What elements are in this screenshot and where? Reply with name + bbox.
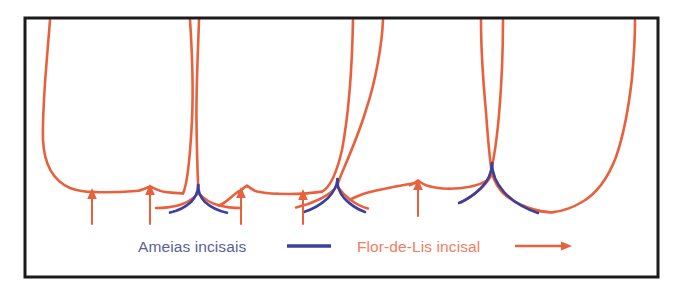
tooth-diagram-figure: Ameias incisais Flor-de-Lis incisal xyxy=(0,0,684,286)
legend-label-flor-de-lis: Flor-de-Lis incisal xyxy=(357,238,480,255)
diagram-canvas: Ameias incisais Flor-de-Lis incisal xyxy=(0,0,684,286)
legend-label-ameias: Ameias incisais xyxy=(138,238,246,255)
